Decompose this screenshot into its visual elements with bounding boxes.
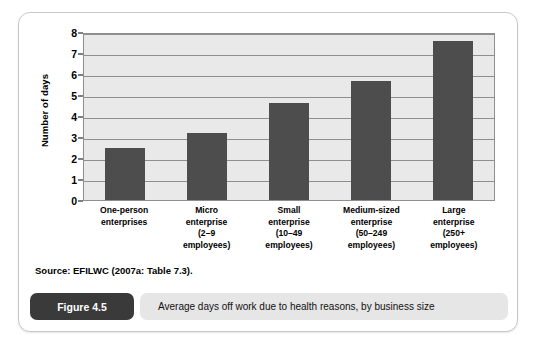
y-axis-tick-4: 4 — [71, 111, 77, 123]
bar-slot — [84, 34, 166, 200]
x-axis-label-1: One-personenterprises — [83, 205, 165, 251]
x-axis-label-3: Smallenterprise(10–49employees) — [248, 205, 330, 251]
x-axis-label-line: One-person — [100, 205, 148, 215]
x-axis-label-4: Medium-sizedenterprise(50–249employees) — [330, 205, 412, 251]
y-axis-tick-0: 0 — [71, 195, 77, 207]
caption-bar: Figure 4.5 Average days off work due to … — [30, 293, 508, 320]
x-axis-label-line: enterprises — [101, 217, 147, 227]
bar — [187, 133, 227, 200]
x-axis-label-line: enterprise — [186, 217, 228, 227]
x-axis-label-line: employees) — [430, 240, 477, 250]
x-axis-label-line: (250+ — [443, 228, 465, 238]
y-axis-tick-3: 3 — [71, 132, 77, 144]
x-axis-label-line: employees) — [348, 240, 395, 250]
x-axis-label-2: Microenterprise(2–9employees) — [165, 205, 247, 251]
x-axis-label-line: (50–249 — [356, 228, 388, 238]
x-axis-label-line: (2–9 — [198, 228, 215, 238]
y-axis-tick-labels: 012345678 — [19, 13, 83, 261]
bar — [433, 41, 473, 200]
figure-number-badge: Figure 4.5 — [30, 293, 134, 320]
figure-card: Number of days 012345678 One-personenter… — [18, 12, 518, 332]
y-axis-tick-1: 1 — [71, 174, 77, 186]
x-axis-label-line: employees) — [183, 240, 230, 250]
y-axis-tick-6: 6 — [71, 69, 77, 81]
bar-slot — [330, 34, 412, 200]
y-axis-tick-5: 5 — [71, 90, 77, 102]
bar-slot — [412, 34, 494, 200]
y-axis-tick-7: 7 — [71, 48, 77, 60]
x-axis-label-line: enterprise — [433, 217, 475, 227]
x-axis-label-line: enterprise — [351, 217, 393, 227]
y-axis-tick-2: 2 — [71, 153, 77, 165]
x-axis-category-labels: One-personenterprisesMicroenterprise(2–9… — [83, 205, 495, 251]
bar-slot — [248, 34, 330, 200]
bar — [105, 148, 145, 201]
x-axis-label-line: Small — [278, 205, 301, 215]
bars-layer — [84, 34, 494, 200]
source-note: Source: EFILWC (2007a: Table 7.3). — [35, 265, 193, 276]
x-axis-label-line: Medium-sized — [343, 205, 400, 215]
plot-wrap — [83, 33, 495, 201]
x-axis-label-line: (10–49 — [276, 228, 303, 238]
bar — [351, 81, 391, 200]
figure-caption: Average days off work due to health reas… — [140, 293, 508, 320]
x-axis-label-line: Large — [442, 205, 465, 215]
y-axis-tick-8: 8 — [71, 27, 77, 39]
bar-chart: Number of days 012345678 One-personenter… — [19, 13, 519, 261]
x-axis-label-5: Largeenterprise(250+employees) — [413, 205, 495, 251]
plot-area — [83, 33, 495, 201]
bar-slot — [166, 34, 248, 200]
x-axis-label-line: Micro — [195, 205, 218, 215]
bar — [269, 103, 309, 200]
x-axis-label-line: enterprise — [268, 217, 310, 227]
x-axis-label-line: employees) — [265, 240, 312, 250]
